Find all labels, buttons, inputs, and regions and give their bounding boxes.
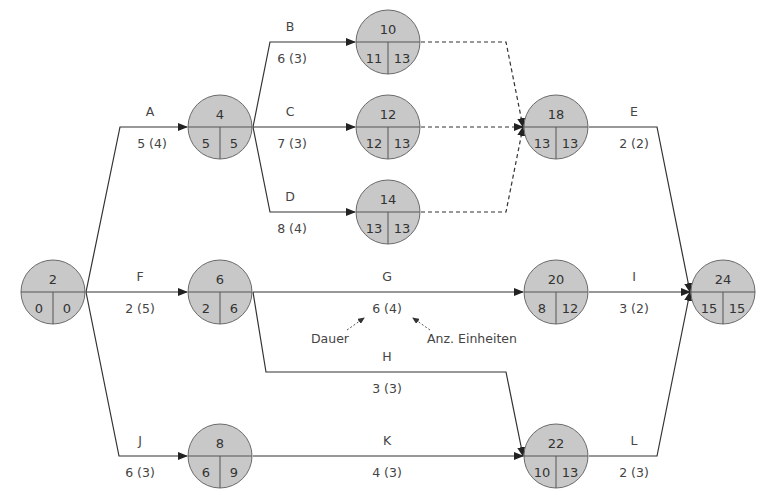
activity-duration-J: 6 (3) bbox=[125, 465, 155, 480]
node-2: 200 bbox=[21, 260, 85, 324]
activity-duration-B: 6 (3) bbox=[277, 51, 307, 66]
node-number: 8 bbox=[216, 436, 224, 451]
edge-E bbox=[589, 127, 690, 292]
node-number: 14 bbox=[380, 192, 397, 207]
activity-label-F: F bbox=[136, 269, 143, 284]
edge-H bbox=[253, 292, 523, 456]
legend-duration-label: Dauer bbox=[311, 331, 350, 346]
edge-labels: A 5 (4) B 6 (3) C 7 (3) D 8 (4) E 2 (2) … bbox=[125, 19, 649, 480]
edge-A bbox=[86, 127, 187, 292]
activity-duration-C: 7 (3) bbox=[277, 136, 307, 151]
node-earliest-time: 8 bbox=[538, 301, 546, 316]
node-14: 141313 bbox=[356, 180, 420, 244]
node-number: 22 bbox=[548, 436, 565, 451]
edge-dummy-10-18 bbox=[421, 42, 523, 127]
legend-arrow-duration bbox=[347, 318, 364, 330]
node-22: 221013 bbox=[524, 424, 588, 488]
activity-label-A: A bbox=[146, 104, 155, 119]
node-earliest-time: 13 bbox=[366, 221, 383, 236]
nodes: 2004556268691011131212131413131813132081… bbox=[21, 10, 755, 488]
legend: Dauer Anz. Einheiten bbox=[311, 318, 517, 346]
node-latest-time: 13 bbox=[394, 136, 411, 151]
node-earliest-time: 13 bbox=[534, 136, 551, 151]
node-20: 20812 bbox=[524, 260, 588, 324]
activity-duration-D: 8 (4) bbox=[277, 221, 307, 236]
node-number: 12 bbox=[380, 107, 397, 122]
node-10: 101113 bbox=[356, 10, 420, 74]
node-18: 181313 bbox=[524, 95, 588, 159]
node-number: 24 bbox=[715, 272, 732, 287]
node-latest-time: 13 bbox=[394, 51, 411, 66]
activity-label-I: I bbox=[632, 269, 636, 284]
edge-L bbox=[589, 292, 690, 456]
node-12: 121213 bbox=[356, 95, 420, 159]
node-latest-time: 13 bbox=[394, 221, 411, 236]
activity-label-H: H bbox=[382, 349, 391, 364]
node-latest-time: 13 bbox=[562, 136, 579, 151]
activity-duration-L: 2 (3) bbox=[619, 465, 649, 480]
activity-duration-A: 5 (4) bbox=[137, 136, 167, 151]
node-earliest-time: 6 bbox=[202, 465, 210, 480]
edge-dummy-14-18 bbox=[421, 127, 523, 212]
node-latest-time: 13 bbox=[562, 465, 579, 480]
node-earliest-time: 2 bbox=[202, 301, 210, 316]
activity-duration-G: 6 (4) bbox=[372, 301, 402, 316]
node-latest-time: 12 bbox=[562, 301, 579, 316]
node-4: 455 bbox=[188, 95, 252, 159]
node-number: 10 bbox=[380, 22, 397, 37]
activity-label-K: K bbox=[383, 433, 392, 448]
node-24: 241515 bbox=[691, 260, 755, 324]
node-number: 4 bbox=[216, 107, 224, 122]
node-number: 6 bbox=[216, 272, 224, 287]
node-latest-time: 9 bbox=[230, 465, 238, 480]
network-diagram: A 5 (4) B 6 (3) C 7 (3) D 8 (4) E 2 (2) … bbox=[0, 0, 770, 503]
node-earliest-time: 10 bbox=[534, 465, 551, 480]
node-earliest-time: 11 bbox=[366, 51, 383, 66]
activity-label-D: D bbox=[285, 189, 295, 204]
node-number: 2 bbox=[49, 272, 57, 287]
activity-label-C: C bbox=[286, 104, 295, 119]
node-latest-time: 15 bbox=[729, 301, 746, 316]
node-8: 869 bbox=[188, 424, 252, 488]
activity-label-L: L bbox=[631, 433, 638, 448]
node-latest-time: 6 bbox=[230, 301, 238, 316]
legend-arrow-units bbox=[413, 318, 430, 330]
node-earliest-time: 15 bbox=[701, 301, 718, 316]
node-latest-time: 5 bbox=[230, 136, 238, 151]
activity-label-E: E bbox=[630, 104, 638, 119]
activity-duration-H: 3 (3) bbox=[372, 381, 402, 396]
node-number: 18 bbox=[548, 107, 565, 122]
node-number: 20 bbox=[548, 272, 565, 287]
activity-label-B: B bbox=[286, 19, 295, 34]
activity-label-G: G bbox=[382, 269, 392, 284]
edge-J bbox=[86, 292, 187, 456]
node-6: 626 bbox=[188, 260, 252, 324]
node-earliest-time: 0 bbox=[35, 301, 43, 316]
activity-duration-I: 3 (2) bbox=[619, 301, 649, 316]
node-earliest-time: 5 bbox=[202, 136, 210, 151]
activity-duration-E: 2 (2) bbox=[619, 136, 649, 151]
legend-units-label: Anz. Einheiten bbox=[427, 331, 517, 346]
activity-duration-K: 4 (3) bbox=[372, 465, 402, 480]
node-earliest-time: 12 bbox=[366, 136, 383, 151]
activity-duration-F: 2 (5) bbox=[125, 301, 155, 316]
node-latest-time: 0 bbox=[63, 301, 71, 316]
activity-label-J: J bbox=[137, 433, 142, 448]
